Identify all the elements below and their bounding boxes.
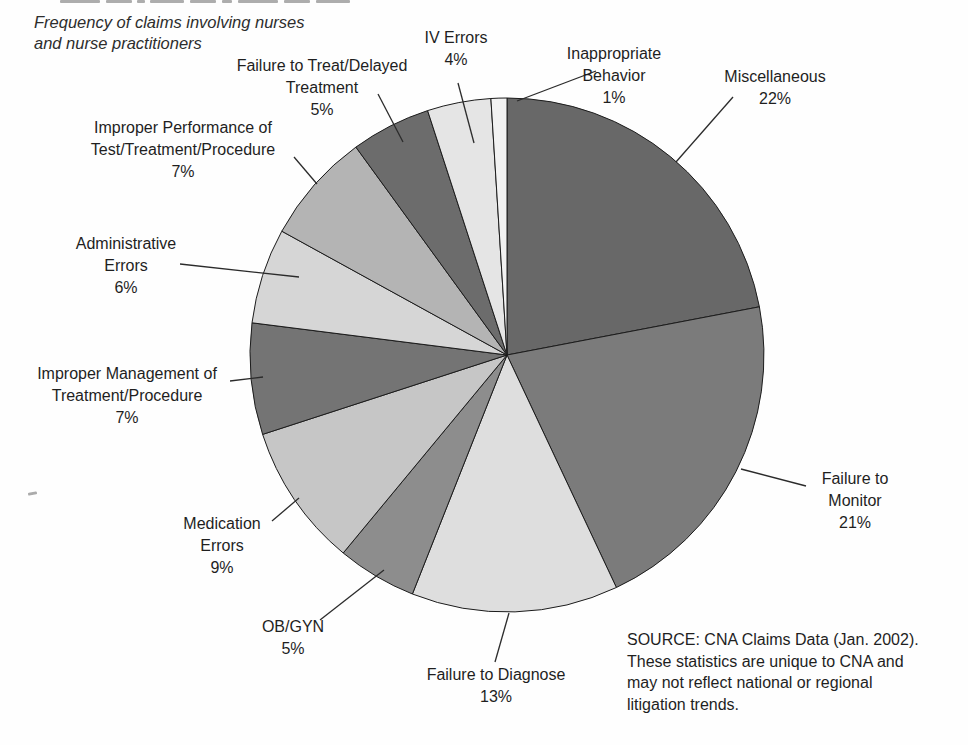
pie-label-iv-errors: IV Errors4% [424, 27, 487, 71]
label-line: Failure to Diagnose [427, 664, 566, 686]
leader-line-failure-to-diagnose [495, 613, 509, 662]
pie-label-ob-gyn: OB/GYN5% [262, 616, 324, 660]
leader-line-failure-to-monitor [741, 469, 806, 486]
label-line: Test/Treatment/Procedure [91, 139, 275, 161]
label-line: Improper Management of [37, 363, 217, 385]
label-line: 6% [76, 277, 176, 299]
label-line: Treatment [237, 77, 408, 99]
pie-label-improper-management: Improper Management ofTreatment/Procedur… [37, 363, 217, 429]
pie-label-improper-performance: Improper Performance ofTest/Treatment/Pr… [91, 117, 275, 183]
label-line: IV Errors [424, 27, 487, 49]
source-note: SOURCE: CNA Claims Data (Jan. 2002). The… [627, 629, 919, 715]
leader-line-ob-gyn [320, 570, 384, 620]
label-line: 5% [237, 99, 408, 121]
label-line: 7% [37, 407, 217, 429]
pie-label-miscellaneous: Miscellaneous22% [724, 66, 825, 110]
label-line: Failure to Treat/Delayed [237, 55, 408, 77]
label-line: 13% [427, 686, 566, 708]
source-line: litigation trends. [627, 694, 919, 716]
label-line: 1% [567, 87, 661, 109]
pie-label-administrative-errors: AdministrativeErrors6% [76, 233, 176, 299]
label-line: Medication [183, 513, 260, 535]
label-line: 4% [424, 49, 487, 71]
source-line: may not reflect national or regional [627, 672, 919, 694]
label-line: 22% [724, 88, 825, 110]
pie-label-failure-to-diagnose: Failure to Diagnose13% [427, 664, 566, 708]
leader-line-medication-errors [272, 498, 299, 521]
label-line: 21% [822, 512, 889, 534]
pie-label-failure-to-monitor: Failure toMonitor21% [822, 468, 889, 534]
label-line: Errors [183, 535, 260, 557]
label-line: Errors [76, 255, 176, 277]
label-line: 5% [262, 638, 324, 660]
pie-label-failure-to-treat: Failure to Treat/DelayedTreatment5% [237, 55, 408, 121]
label-line: 9% [183, 557, 260, 579]
source-line: SOURCE: CNA Claims Data (Jan. 2002). [627, 629, 919, 651]
label-line: Administrative [76, 233, 176, 255]
scanned-chart-page: Frequency of claims involving nurses and… [0, 0, 968, 745]
source-line: These statistics are unique to CNA and [627, 651, 919, 673]
pie-label-inappropriate-behavior: InappropriateBehavior1% [567, 43, 661, 109]
label-line: Inappropriate [567, 43, 661, 65]
label-line: Failure to [822, 468, 889, 490]
label-line: Miscellaneous [724, 66, 825, 88]
label-line: Behavior [567, 65, 661, 87]
label-line: 7% [91, 161, 275, 183]
pie-label-medication-errors: MedicationErrors9% [183, 513, 260, 579]
label-line: Monitor [822, 490, 889, 512]
label-line: OB/GYN [262, 616, 324, 638]
leader-line-improper-performance [294, 157, 317, 184]
label-line: Treatment/Procedure [37, 385, 217, 407]
